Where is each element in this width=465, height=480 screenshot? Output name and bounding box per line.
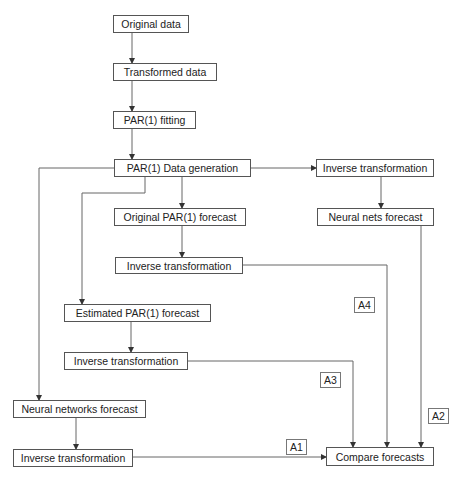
node-transformed-data: Transformed data [113,63,217,81]
node-par1-data-generation: PAR(1) Data generation [114,159,251,177]
node-original-data: Original data [113,15,189,33]
node-compare-forecasts: Compare forecasts [326,447,434,466]
node-par1-fitting: PAR(1) fitting [113,111,196,129]
label-a3: A3 [320,372,341,388]
node-neural-networks-forecast: Neural networks forecast [13,400,146,418]
node-inverse-transformation-neural: Inverse transformation [13,449,133,467]
node-neural-nets-forecast: Neural nets forecast [317,208,434,226]
node-estimated-par1-forecast: Estimated PAR(1) forecast [64,304,211,322]
node-original-par1-forecast: Original PAR(1) forecast [114,208,246,226]
node-inverse-transformation-estimated: Inverse transformation [64,352,188,370]
node-inverse-transformation-right: Inverse transformation [316,159,434,177]
label-a1: A1 [286,439,307,455]
label-a2: A2 [428,408,449,424]
node-inverse-transformation-original: Inverse transformation [115,257,243,274]
label-a4: A4 [354,297,375,313]
